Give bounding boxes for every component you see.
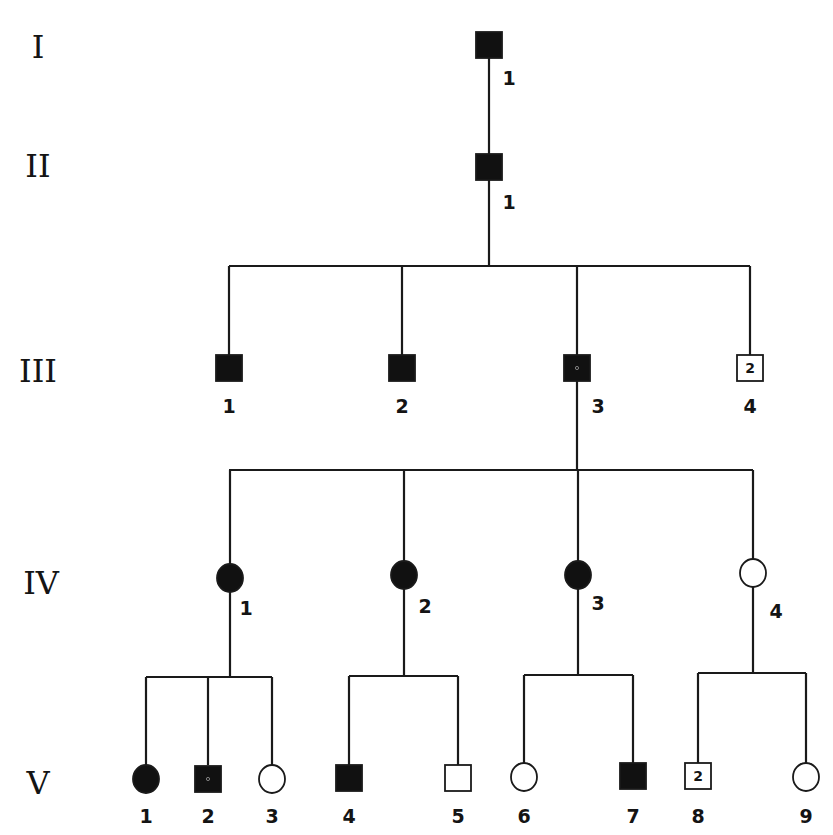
individual-number: 1	[139, 805, 152, 827]
sibling-count: 2	[693, 768, 703, 784]
affected-female-circle-icon	[565, 561, 591, 589]
generation-label: I	[32, 28, 45, 66]
individual-V-2: 2	[195, 766, 221, 827]
individual-III-3: 3	[564, 355, 605, 417]
individual-number: 8	[691, 805, 704, 827]
individual-V-1: 1	[133, 765, 159, 827]
individual-number: 6	[517, 805, 530, 827]
individual-V-4: 4	[336, 765, 362, 827]
pedigree-chart: IIIIIIIVV 111232412341234567289	[0, 0, 833, 835]
affected-male-square-icon	[564, 355, 590, 381]
individual-number: 3	[591, 395, 604, 417]
affected-male-square-icon	[620, 763, 646, 789]
individual-number: 2	[395, 395, 408, 417]
individual-V-5: 5	[445, 765, 471, 827]
unaffected-female-circle-icon	[511, 763, 537, 791]
individual-III-4: 24	[737, 355, 763, 417]
generation-label: V	[25, 764, 50, 802]
affected-male-square-icon	[476, 154, 502, 180]
individual-number: 3	[265, 805, 278, 827]
affected-male-square-icon	[336, 765, 362, 791]
individual-IV-1: 1	[217, 564, 253, 619]
generation-label: III	[19, 352, 57, 390]
sibling-count: 2	[745, 360, 755, 376]
individual-III-1: 1	[216, 355, 242, 417]
individual-number: 7	[626, 805, 639, 827]
affected-male-square-icon	[389, 355, 415, 381]
individual-V-6: 6	[511, 763, 537, 827]
generation-labels: IIIIIIIVV	[19, 28, 60, 802]
affected-male-square-icon	[476, 32, 502, 58]
affected-female-circle-icon	[217, 564, 243, 592]
individual-IV-3: 3	[565, 561, 605, 614]
affected-female-circle-icon	[133, 765, 159, 793]
individual-number: 4	[342, 805, 355, 827]
individual-III-2: 2	[389, 355, 415, 417]
individual-number: 9	[799, 805, 812, 827]
individual-number: 1	[239, 597, 252, 619]
unaffected-female-circle-icon	[793, 763, 819, 791]
individual-number: 2	[201, 805, 214, 827]
individual-number: 1	[502, 191, 515, 213]
individual-V-9: 9	[793, 763, 819, 827]
unaffected-female-circle-icon	[259, 765, 285, 793]
individual-number: 2	[418, 595, 431, 617]
individual-IV-2: 2	[391, 561, 432, 617]
unaffected-female-circle-icon	[740, 559, 766, 587]
affected-male-square-icon	[216, 355, 242, 381]
individual-number: 5	[451, 805, 464, 827]
individual-IV-4: 4	[740, 559, 783, 622]
individuals: 111232412341234567289	[133, 32, 819, 827]
individual-II-1: 1	[476, 154, 516, 213]
generation-label: IV	[23, 564, 60, 602]
individual-number: 1	[502, 67, 515, 89]
generation-label: II	[25, 147, 50, 185]
individual-V-7: 7	[620, 763, 646, 827]
affected-female-circle-icon	[391, 561, 417, 589]
individual-V-3: 3	[259, 765, 285, 827]
unaffected-male-square-icon	[445, 765, 471, 791]
individual-number: 1	[222, 395, 235, 417]
individual-V-8: 28	[685, 763, 711, 827]
individual-I-1: 1	[476, 32, 516, 89]
individual-number: 3	[591, 592, 604, 614]
individual-number: 4	[769, 600, 782, 622]
individual-number: 4	[743, 395, 756, 417]
affected-male-square-icon	[195, 766, 221, 792]
